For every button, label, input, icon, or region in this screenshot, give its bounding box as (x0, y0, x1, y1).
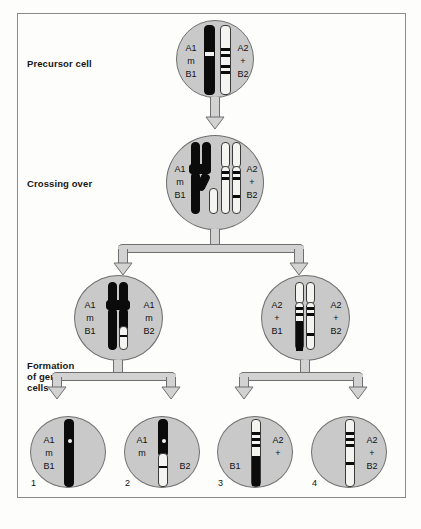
stage-label-formation-line3: cells (27, 382, 49, 394)
arrowhead-split1-left (113, 262, 133, 276)
precursor-cell: A1 m B1 A2 + B2 (176, 20, 254, 98)
arrowhead-germ4 (348, 386, 368, 400)
arrowhead-germ1 (47, 386, 67, 400)
crossover-white-chromatid-upper-right (232, 142, 241, 168)
connector-split2-right-horizontal (239, 372, 363, 381)
crossover-white-chromatid-upper-left (221, 142, 230, 168)
germ-cell-1: A1 m B1 (30, 416, 106, 488)
germ1-label-m: m (37, 448, 61, 459)
germ1-chromosome (64, 419, 74, 487)
germ1-label-B1: B1 (37, 461, 61, 472)
precursor-label-B2: B2 (231, 69, 255, 80)
secondary-cell-right: A2 + B1 A2 + B2 (261, 275, 350, 361)
germ-cell-4-number: 4 (312, 478, 317, 488)
secondary-left-label-A1-right: A1 (137, 300, 161, 311)
secondary-left-label-m: m (78, 313, 102, 324)
germ3-label-A2: A2 (266, 435, 290, 446)
arrowhead-precursor-to-crossing (205, 116, 225, 130)
arrowhead-germ3 (234, 386, 254, 400)
stage-label-formation-line1: Formation (27, 360, 74, 372)
meiosis-crossing-over-diagram: Precursor cell Crossing over Formation o… (0, 0, 421, 529)
secondary-cell-left: A1 m B1 A1 m B2 (74, 275, 163, 361)
germ2-label-A1: A1 (130, 435, 154, 446)
germ4-chromosome (345, 419, 355, 487)
germ3-label-plus: + (266, 448, 290, 459)
secondary-right-label-A2: A2 (265, 300, 289, 311)
secondary-right-label-A2-right: A2 (324, 300, 348, 311)
precursor-chromosome-maternal (204, 25, 215, 95)
germ-cell-2: A1 m B2 (124, 416, 200, 488)
germ4-label-B2: B2 (360, 461, 384, 472)
secondary-right-chromatid-upper-right (306, 282, 315, 304)
germ3-label-B1: B1 (223, 461, 247, 472)
crossover-white-chromatid-recombinant-lower (209, 188, 218, 214)
germ-cell-3-number: 3 (218, 478, 223, 488)
crossover-label-A2: A2 (241, 164, 263, 175)
secondary-left-chromatid-lower-right-white (119, 326, 128, 350)
germ4-label-A2: A2 (360, 435, 384, 446)
secondary-right-label-plus-right: + (324, 313, 348, 324)
precursor-chromosome-paternal (220, 25, 231, 95)
germ4-label-plus: + (360, 448, 384, 459)
germ-cell-2-number: 2 (125, 478, 130, 488)
secondary-right-label-plus: + (265, 313, 289, 324)
crossover-label-B1: B1 (169, 190, 191, 201)
precursor-label-B1: B1 (179, 69, 203, 80)
germ2-chromosome-lower-white (158, 453, 168, 487)
stage-label-precursor-cell: Precursor cell (27, 58, 92, 70)
connector-split1-horizontal (118, 244, 304, 253)
germ1-label-A1: A1 (37, 435, 61, 446)
secondary-right-chromatid-lower-left (295, 302, 304, 350)
secondary-right-chromatid-upper-left (295, 282, 304, 304)
secondary-right-chromatid-lower-right (306, 302, 315, 350)
crossover-label-m: m (169, 177, 191, 188)
precursor-label-plus: + (231, 56, 255, 67)
germ2-label-m: m (130, 448, 154, 459)
germ2-label-B2: B2 (173, 461, 197, 472)
secondary-right-label-B1: B1 (265, 326, 289, 337)
precursor-label-m: m (179, 56, 203, 67)
crossover-label-B2: B2 (241, 190, 263, 201)
secondary-left-label-B1: B1 (78, 326, 102, 337)
secondary-left-chromatid-lower-left (108, 308, 117, 350)
precursor-label-A1: A1 (179, 43, 203, 54)
secondary-left-label-A1: A1 (78, 300, 102, 311)
secondary-left-label-B2: B2 (137, 326, 161, 337)
arrowhead-split1-right (289, 262, 309, 276)
connector-split2-left-horizontal (52, 372, 176, 381)
crossover-white-chromatid-lower-left (221, 166, 230, 214)
germ-cell-4: A2 + B2 (311, 416, 387, 488)
precursor-label-A2: A2 (231, 43, 255, 54)
germ2-chromosome-upper-black (158, 419, 168, 457)
crossover-label-plus: + (241, 177, 263, 188)
crossing-over-cell: A1 m B1 A2 + B2 (166, 135, 264, 230)
germ3-chromosome (251, 419, 261, 487)
stage-label-crossing-over: Crossing over (27, 178, 92, 190)
arrowhead-germ2 (161, 386, 181, 400)
secondary-left-label-m-right: m (137, 313, 161, 324)
crossover-label-A1: A1 (169, 164, 191, 175)
secondary-right-label-B2: B2 (324, 326, 348, 337)
germ-cell-1-number: 1 (31, 478, 36, 488)
germ-cell-3: B1 A2 + (217, 416, 293, 488)
crossover-white-chromatid-lower-right (232, 166, 241, 214)
